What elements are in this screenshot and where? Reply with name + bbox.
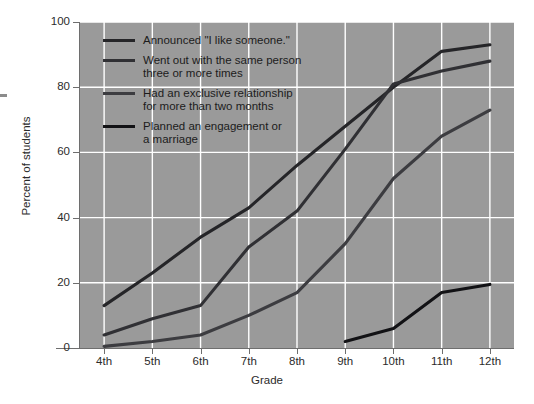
x-axis-title: Grade: [0, 374, 534, 386]
x-tick-mark-9th: [345, 349, 346, 354]
x-tick-mark-7th: [249, 349, 250, 354]
x-tick-mark-12th: [490, 349, 491, 354]
y-tick-mark-40: [73, 218, 79, 219]
x-tick-mark-6th: [201, 349, 202, 354]
x-tick-mark-4th: [104, 349, 105, 354]
legend-item-2: Had an exclusive relationship for more t…: [103, 87, 333, 114]
legend-item-0: Announced "I like someone.": [103, 34, 333, 48]
y-tick-label-60: 60: [36, 146, 70, 157]
x-axis-line: [56, 348, 514, 349]
x-tick-mark-5th: [152, 349, 153, 354]
legend-swatch-icon-1: [103, 59, 135, 62]
legend-label-2: Had an exclusive relationship for more t…: [143, 87, 293, 114]
y-tick-mark-0: [73, 348, 79, 349]
series-line-3: [345, 284, 490, 341]
x-tick-mark-8th: [297, 349, 298, 354]
y-tick-label-40: 40: [36, 212, 70, 223]
y-tick-label-80: 80: [36, 81, 70, 92]
x-tick-mark-11th: [442, 349, 443, 354]
legend-label-0: Announced "I like someone.": [143, 34, 290, 48]
legend-swatch-icon-0: [103, 39, 135, 42]
x-tick-mark-10th: [393, 349, 394, 354]
y-axis-line: [79, 22, 80, 349]
y-tick-label-0: 0: [36, 342, 70, 353]
y-tick-mark-60: [73, 152, 79, 153]
legend-swatch-icon-3: [103, 125, 135, 128]
legend-item-3: Planned an engagement or a marriage: [103, 120, 333, 147]
chart-page: 020406080100 4th5th6th7th8th9th10th11th1…: [0, 0, 534, 404]
y-tick-mark-20: [73, 283, 79, 284]
x-tick-label-12th: 12th: [460, 355, 520, 367]
legend-label-1: Went out with the same person three or m…: [143, 54, 301, 81]
chart-legend: Announced "I like someone."Went out with…: [103, 34, 333, 153]
y-tick-label-20: 20: [36, 277, 70, 288]
page-edge-mark: [0, 94, 7, 97]
y-tick-mark-80: [73, 87, 79, 88]
legend-item-1: Went out with the same person three or m…: [103, 54, 333, 81]
y-tick-label-100: 100: [36, 16, 70, 27]
y-tick-mark-100: [73, 22, 79, 23]
legend-label-3: Planned an engagement or a marriage: [143, 120, 282, 147]
y-axis-title: Percent of students: [20, 96, 32, 236]
legend-swatch-icon-2: [103, 92, 135, 95]
y-axis-tick-group: 020406080100: [30, 0, 70, 404]
